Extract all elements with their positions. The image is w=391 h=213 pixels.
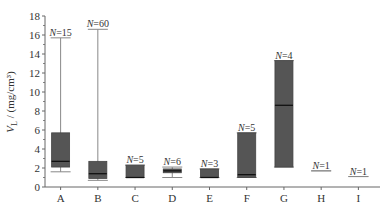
x-tick-label: D bbox=[168, 192, 176, 204]
x-tick-label: I bbox=[357, 192, 361, 204]
y-tick-label: 12 bbox=[29, 67, 40, 79]
x-tick-label: C bbox=[131, 192, 138, 204]
box-plot-chart: 024681012141618 ABCDEFGHI N=15N=60N=5N=6… bbox=[0, 0, 391, 213]
box-h: N=1 bbox=[311, 160, 331, 171]
n-label-value: =1 bbox=[356, 166, 367, 177]
x-tick-label: H bbox=[317, 192, 325, 204]
n-label: N=5 bbox=[237, 122, 255, 133]
boxes-group: N=15N=60N=5N=6N=3N=5N=4N=1N=1 bbox=[48, 18, 368, 180]
n-label: N=4 bbox=[274, 50, 292, 61]
x-axis: ABCDEFGHI bbox=[45, 187, 380, 204]
box-a: N=15 bbox=[48, 27, 71, 172]
n-label-value: =6 bbox=[170, 156, 181, 167]
y-tick-label: 4 bbox=[35, 143, 41, 155]
n-label-value: =3 bbox=[208, 158, 219, 169]
n-label: N=5 bbox=[125, 154, 143, 165]
x-tick-label: F bbox=[244, 192, 250, 204]
box-f: N=5 bbox=[237, 122, 257, 178]
n-label-value: =5 bbox=[133, 154, 144, 165]
n-label-value: =4 bbox=[282, 50, 293, 61]
plot-canvas: 024681012141618 ABCDEFGHI N=15N=60N=5N=6… bbox=[0, 0, 391, 213]
box-i: N=1 bbox=[348, 166, 368, 177]
n-label: N=3 bbox=[200, 158, 218, 169]
box-e: N=3 bbox=[200, 158, 220, 178]
box-iqr bbox=[201, 169, 219, 178]
y-tick-label: 18 bbox=[29, 10, 41, 22]
y-tick-label: 6 bbox=[35, 124, 41, 136]
box-iqr bbox=[126, 165, 144, 177]
n-label: N=60 bbox=[86, 18, 109, 29]
y-tick-label: 14 bbox=[29, 48, 41, 60]
y-tick-label: 2 bbox=[35, 162, 41, 174]
y-tick-label: 0 bbox=[35, 181, 41, 193]
x-tick-label: G bbox=[280, 192, 288, 204]
x-tick-label: B bbox=[94, 192, 101, 204]
n-label: N=6 bbox=[163, 156, 181, 167]
box-iqr bbox=[238, 133, 256, 178]
n-label: N=1 bbox=[312, 160, 330, 171]
y-tick-label: 16 bbox=[29, 29, 41, 41]
box-c: N=5 bbox=[125, 154, 145, 177]
box-iqr bbox=[275, 61, 293, 167]
n-label: N=1 bbox=[349, 166, 367, 177]
y-tick-label: 10 bbox=[29, 86, 41, 98]
n-label-value: =60 bbox=[93, 18, 109, 29]
n-label-value: =15 bbox=[56, 27, 72, 38]
n-label-value: =5 bbox=[245, 122, 256, 133]
ylabel-unit: / (mg/cm³) bbox=[4, 71, 17, 121]
box-d: N=6 bbox=[162, 156, 182, 177]
y-axis: 024681012141618 bbox=[29, 10, 45, 193]
x-tick-label: E bbox=[206, 192, 213, 204]
box-b: N=60 bbox=[86, 18, 109, 180]
y-tick-label: 8 bbox=[35, 105, 41, 117]
box-g: N=4 bbox=[274, 50, 294, 167]
y-axis-label: VL / (mg/cm³) bbox=[4, 71, 19, 133]
n-label: N=15 bbox=[48, 27, 71, 38]
x-tick-label: A bbox=[57, 192, 65, 204]
box-iqr bbox=[89, 161, 107, 178]
n-label-value: =1 bbox=[319, 160, 330, 171]
